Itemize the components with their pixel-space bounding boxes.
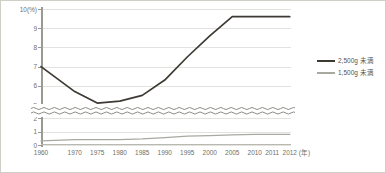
x-tick-label-2000: 2000	[203, 149, 217, 157]
legend-swatch-1500g	[317, 72, 335, 74]
y-tick-label-9: 9	[7, 25, 37, 32]
legend-label-2500g: 2,500g 未満	[338, 57, 374, 65]
gridline-0	[41, 145, 291, 146]
y-axis-break-marker	[31, 104, 295, 117]
x-tick-label-1995: 1995	[180, 149, 194, 157]
x-tick-label-1960: 1960	[34, 149, 48, 157]
x-tick-label-1970: 1970	[68, 149, 82, 157]
legend-item-2500g[interactable]: 2,500g 未満	[317, 55, 383, 67]
x-tick-label-1990: 1990	[158, 149, 172, 157]
x-tick-label-1985: 1985	[135, 149, 149, 157]
y-tick-label-0: 0	[7, 142, 37, 149]
series-line-2500g	[41, 9, 291, 145]
x-tick-label-2005: 2005	[225, 149, 239, 157]
y-tick-label-1: 1	[7, 128, 37, 135]
y-tick-label-7: 7	[7, 63, 37, 70]
x-axis-tick-labels: 1960197019751980198519901995200020052010…	[41, 149, 341, 161]
y-tick-label-8: 8	[7, 44, 37, 51]
legend-item-1500g[interactable]: 1,500g 未満	[317, 67, 383, 79]
legend-label-1500g: 1,500g 未満	[338, 69, 374, 77]
x-tick-label-2011: 2011	[265, 149, 279, 157]
chart-figure: 5678910(%)012 19601970197519801985199019…	[0, 0, 386, 173]
y-tick-label-6: 6	[7, 82, 37, 89]
y-tick-label-10: 10(%)	[1, 6, 37, 13]
chart-legend: 2,500g 未満 1,500g 未満	[317, 55, 383, 79]
x-axis-unit-label: (年)	[299, 149, 310, 157]
x-tick-label-2012: 2012	[283, 149, 297, 157]
legend-swatch-2500g	[317, 60, 335, 62]
x-tick-label-1975: 1975	[90, 149, 104, 157]
x-tick-label-2010: 2010	[248, 149, 262, 157]
x-tick-label-1980: 1980	[113, 149, 127, 157]
chart-plot-area: 5678910(%)012	[41, 9, 291, 145]
y-tickmark-0	[38, 145, 42, 146]
